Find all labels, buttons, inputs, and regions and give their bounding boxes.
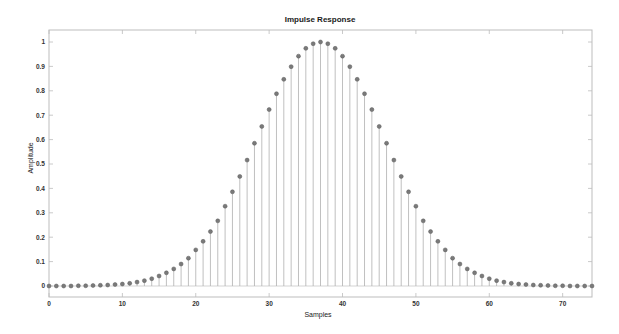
x-tick-label: 0 [47, 300, 51, 307]
stem-marker [142, 279, 146, 283]
stem-marker [164, 271, 168, 275]
stem-marker [120, 282, 124, 286]
stem-marker [502, 280, 506, 284]
stem-marker [84, 284, 88, 288]
stem-marker [157, 274, 161, 278]
stem-marker [465, 267, 469, 271]
stem-marker [47, 284, 51, 288]
stem-marker [524, 283, 528, 287]
stem-marker [54, 284, 58, 288]
y-tick-label: 0.2 [36, 234, 45, 241]
x-axis-ticks: 010203040506070 [47, 30, 566, 307]
x-tick-label: 50 [412, 300, 420, 307]
stem-marker [106, 283, 110, 287]
stem-marker [326, 42, 330, 46]
stem-marker [539, 283, 543, 287]
stem-marker [267, 108, 271, 112]
stem-marker [385, 141, 389, 145]
stem-marker [473, 271, 477, 275]
stem-marker [172, 267, 176, 271]
y-tick-label: 0 [41, 282, 45, 289]
stem-marker [377, 124, 381, 128]
y-tick-label: 0.7 [36, 112, 45, 119]
stem-marker [128, 281, 132, 285]
stem-marker [355, 77, 359, 81]
stem-marker [458, 262, 462, 266]
stem-marker [282, 77, 286, 81]
stem-marker [304, 46, 308, 50]
y-tick-label: 0.9 [36, 63, 45, 70]
stem-marker [223, 204, 227, 208]
stem-marker [98, 283, 102, 287]
stem-marker [370, 108, 374, 112]
stem-marker [451, 256, 455, 260]
stem-marker [333, 46, 337, 50]
y-tick-label: 0.8 [36, 87, 45, 94]
stem-lines [49, 42, 592, 286]
stem-marker [341, 54, 345, 58]
stem-marker [392, 158, 396, 162]
x-axis-label: Samples [304, 311, 332, 319]
x-tick-label: 30 [266, 300, 274, 307]
y-axis-ticks: 00.10.20.30.40.50.60.70.80.91 [36, 38, 592, 289]
stem-marker [583, 284, 587, 288]
x-tick-label: 70 [559, 300, 567, 307]
stem-marker [245, 158, 249, 162]
x-tick-label: 40 [339, 300, 347, 307]
y-tick-label: 0.5 [36, 160, 45, 167]
stem-marker [113, 283, 117, 287]
stem-marker [421, 219, 425, 223]
x-tick-label: 60 [486, 300, 494, 307]
stem-marker [194, 248, 198, 252]
chart-title: Impulse Response [285, 15, 356, 24]
stem-marker [150, 277, 154, 281]
stem-marker [443, 248, 447, 252]
stem-marker [363, 92, 367, 96]
stem-marker [274, 92, 278, 96]
stem-marker [414, 204, 418, 208]
stem-marker [348, 65, 352, 69]
y-tick-label: 1 [41, 38, 45, 45]
stem-marker [238, 174, 242, 178]
y-tick-label: 0.3 [36, 209, 45, 216]
y-axis-label: Amplitude [27, 142, 35, 173]
stem-marker [546, 284, 550, 288]
x-tick-label: 10 [119, 300, 127, 307]
stem-marker [135, 280, 139, 284]
stem-marker [252, 141, 256, 145]
stem-marker [553, 284, 557, 288]
stem-marker [69, 284, 73, 288]
stem-marker [568, 284, 572, 288]
y-tick-label: 0.1 [36, 258, 45, 265]
stem-marker [575, 284, 579, 288]
stem-marker [561, 284, 565, 288]
stem-marker [319, 40, 323, 44]
x-tick-label: 20 [192, 300, 200, 307]
stem-marker [76, 284, 80, 288]
impulse-response-chart: Impulse Response 00.10.20.30.40.50.60.70… [0, 0, 619, 334]
stem-marker [436, 239, 440, 243]
y-tick-label: 0.4 [36, 185, 45, 192]
stem-marker [62, 284, 66, 288]
stem-marker [487, 277, 491, 281]
stem-marker [201, 239, 205, 243]
stem-marker [179, 262, 183, 266]
stem-marker [216, 219, 220, 223]
stem-marker [399, 174, 403, 178]
stem-marker [429, 230, 433, 234]
stem-marker [480, 274, 484, 278]
stem-marker [289, 65, 293, 69]
stem-marker [296, 54, 300, 58]
stem-marker [590, 284, 594, 288]
stem-marker [260, 124, 264, 128]
stem-marker [311, 42, 315, 46]
stem-marker [495, 279, 499, 283]
stem-marker [509, 281, 513, 285]
y-tick-label: 0.6 [36, 136, 45, 143]
stem-marker [531, 283, 535, 287]
stem-marker [91, 284, 95, 288]
stem-marker [230, 190, 234, 194]
stem-marker [186, 256, 190, 260]
stem-marker [407, 190, 411, 194]
stem-marker [208, 230, 212, 234]
